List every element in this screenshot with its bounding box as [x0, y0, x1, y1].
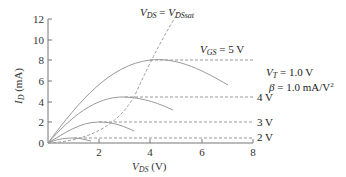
vgs2-label: 2 V — [257, 131, 273, 143]
svg-text:4: 4 — [39, 96, 45, 108]
svg-text:6: 6 — [39, 75, 45, 87]
curve-vgs-4-triode — [48, 97, 173, 143]
svg-text:12: 12 — [33, 13, 44, 25]
curve-vgs-5-triode — [48, 60, 228, 143]
svg-text:2: 2 — [39, 116, 45, 128]
vt-param: VT = 1.0 V — [266, 66, 313, 80]
beta-param: β = 1.0 mA/V2 — [268, 81, 334, 93]
svg-text:8: 8 — [39, 54, 45, 66]
saturation-lines — [48, 10, 253, 143]
svg-text:6: 6 — [199, 146, 205, 158]
svg-text:10: 10 — [33, 34, 45, 46]
y-tick-labels: 0 2 4 6 8 10 12 — [33, 13, 45, 149]
curve-vgs-3-triode — [48, 122, 134, 143]
y-axis-title: ID (mA) — [12, 68, 26, 105]
vgs3-label: 3 V — [257, 116, 273, 128]
boundary-label: VDS = VDSsat — [140, 6, 195, 20]
svg-text:8: 8 — [250, 146, 256, 158]
svg-text:2: 2 — [96, 146, 102, 158]
vgs5-label: VGS = 5 V — [200, 43, 244, 57]
x-tick-labels: 2 4 6 8 — [96, 146, 256, 158]
chart: 0 2 4 6 8 10 12 2 4 6 8 VDS (V) ID (mA) — [0, 0, 346, 177]
x-axis-title: VDS (V) — [132, 160, 167, 174]
curve-vgs-5 — [48, 50, 150, 143]
svg-text:0: 0 — [39, 137, 45, 149]
axes — [48, 19, 253, 143]
svg-text:4: 4 — [147, 146, 153, 158]
